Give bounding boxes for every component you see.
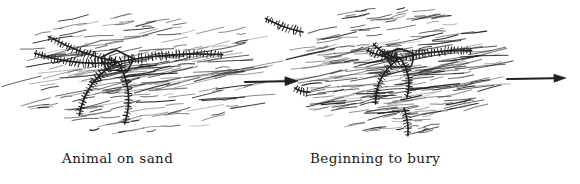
panel-1-sand-stroke [114,14,132,18]
arrow-panel1-to-panel2-head [285,77,298,86]
arrow-panel2-to-next-head [554,74,566,82]
arrow-panel2-to-next [507,74,566,82]
panel-2-arm-right-spine [422,54,423,57]
panel-2-fragment-low-right-spine [408,128,411,129]
panel-2-sand-stroke [325,115,333,117]
arrow-panel2-to-next-shaft [507,78,554,79]
panel-1-sand-stroke [124,28,154,31]
panel-2-arm-lower-right-spine [406,81,409,82]
panel-1-arm-lower-left-spine [79,100,83,101]
panel-2-sand-stroke [367,15,391,19]
panel-2-sand-stroke [313,96,334,98]
panel-1-animal [35,35,223,124]
panel-2-arm-lower-left-spine [377,92,380,93]
field-sketch-figure: Animal on sand Beginning to bury [0,0,580,184]
panel-1-arm-right-spine [148,54,149,57]
panel-1-sand-stroke [163,94,174,96]
panel-1-sand-stroke [232,36,268,44]
panel-2-sand-stroke [349,123,365,125]
panel-1-sand-stroke [85,35,114,37]
panel-1-arm-lower-right-spine [120,63,123,65]
panel-2-sand-over-stroke [386,21,395,22]
panel-1-sand-stroke [60,30,86,36]
panel-2-sand-over-stroke [413,10,435,12]
panel-1-sand-over-stroke [41,84,55,86]
panel-2-fragment-far-left-spine [274,23,275,25]
panel-1-sand-stroke [2,76,42,87]
panel-1-arm-lower-right-spine [122,84,126,85]
panel-1-arm-right-spine [187,54,188,57]
panel-2-fragment-far-left-spine [278,25,279,29]
panel-2-fragment-low-left-spine [294,89,296,92]
panel-1-sand-stroke [43,66,96,78]
panel-1-sand-stroke [157,34,180,35]
panel-1-sand-stroke [161,125,180,126]
panel-2-arm-lower-left-spine [382,77,385,80]
panel-2-animal [265,16,472,136]
panel-1-arm-right-spine [139,53,140,58]
panel-1-sand-stroke [72,118,99,120]
panel-2-fragment-far-left-spine [290,25,293,29]
panel-1-sand-stroke [173,23,186,25]
panel-1-sand-over-stroke [111,14,130,19]
panel-1-sand-stroke [172,27,182,28]
panel-2-sand-stroke [397,8,405,10]
panel-2-arm-right-spine [401,53,404,57]
panel-2-sand-over-stroke [341,46,355,47]
panel-1-sand-stroke [20,48,44,49]
panel-1-sand-stroke [59,15,89,22]
panel-2-sand-stroke [322,32,356,40]
panel-1-sand-stroke [192,90,222,98]
panel-1-sand-stroke [166,104,183,106]
panel-1-sand-stroke [124,36,148,37]
panel-2-sand-over-stroke [418,127,425,128]
panel-1-sand-over-stroke [162,37,188,42]
panel-1-sand-stroke [219,27,245,33]
panel-2-fragment-far-left-spine [266,19,267,22]
panel-2-arm-lower-left-spine [381,80,383,82]
panel-1-sand-stroke [54,28,63,29]
panel-1-sand-stroke [64,116,86,118]
sand-hatching-layer [2,8,514,134]
sketch-canvas: Animal on sand Beginning to bury [0,0,580,184]
panel-1-sand-over-stroke [102,37,140,40]
panel-1-sand-over-stroke [130,94,150,95]
panel-1-sand-stroke [146,19,169,22]
panel-1-sand-over-stroke [142,26,151,27]
panel-1-sand-stroke [213,46,230,47]
panel-2-sand-stroke [433,28,443,30]
panel-1-arm-mid-left-spine [80,48,81,51]
panel-1-sand-over-stroke [111,106,124,110]
panel-2-sand-over-stroke [351,25,365,28]
panel-1-arm-upper-left-spine [35,54,36,58]
panel-1-arm-mid-left-spine [98,57,99,61]
panel-1-arm-mid-left-spine [90,56,92,59]
panel-1-sand-over-stroke [237,34,246,35]
panel-2-sand-stroke [397,128,404,130]
panel-2-fragment-low-right-spine [408,132,410,133]
panel-2-sand-over-stroke [395,93,436,105]
panel-1-arm-mid-left-spine [59,39,60,42]
panel-1-sand-over-stroke [98,122,122,127]
panel-1-arm-upper-left-spine [42,52,43,56]
panel-2-arm-lower-left-spine [376,103,378,104]
panel-2-fragment-low-left-spine [301,87,302,91]
panel-1-sand-stroke [81,111,111,116]
panel-2-sand-stroke [411,35,434,37]
panel-1-sand-over-stroke [169,94,195,97]
panel-1-sand-stroke [128,107,164,112]
panel-1-sand-stroke [143,126,161,128]
panel-2-sand-stroke [397,10,408,13]
panel-2-sand-over-stroke [443,24,457,25]
panel-2-fragment-low-left-spine [296,86,298,89]
panel-1-sand-stroke [38,107,49,108]
panel-2-sand-over-stroke [427,21,439,23]
panel-1-arm-mid-left-spine [74,46,75,49]
panel-1-sand-stroke [191,125,209,127]
panel-1-arm-mid-left-spine [62,45,64,48]
panel-2-arm-right-spine [416,50,417,54]
panel-2-sand-stroke [308,27,337,34]
panel-1-arm-upper-left-spine [70,61,71,65]
panel-2-sand-stroke [383,114,396,117]
panel-2-fragment-far-left-spine [278,21,279,25]
